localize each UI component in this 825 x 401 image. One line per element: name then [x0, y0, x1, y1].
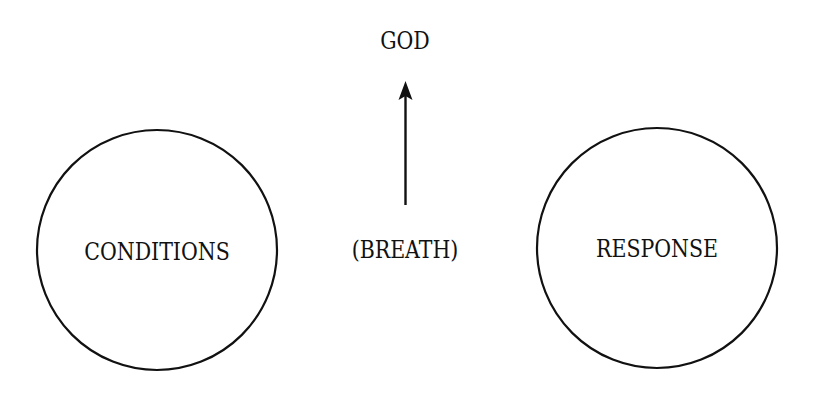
- diagram-shapes: [0, 0, 825, 401]
- conditions-label: CONDITIONS: [84, 237, 230, 266]
- diagram-canvas: GOD (BREATH) CONDITIONS RESPONSE: [0, 0, 825, 401]
- up-arrow-icon: [399, 81, 413, 205]
- response-label: RESPONSE: [596, 234, 718, 263]
- breath-label: (BREATH): [352, 235, 459, 264]
- god-label: GOD: [380, 26, 430, 55]
